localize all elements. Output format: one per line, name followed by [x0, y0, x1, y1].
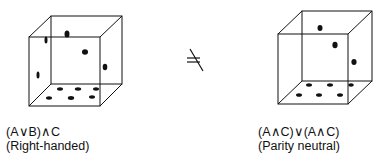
left-cube [29, 16, 122, 106]
left-formula: (A∨B)∧C [6, 125, 89, 139]
not-equal-icon [187, 49, 203, 71]
right-formula: (A∧C)∨(A∧C) [258, 125, 340, 139]
left-cube-dots [37, 31, 108, 100]
right-caption: (A∧C)∨(A∧C) (Parity neutral) [258, 125, 340, 153]
right-label: (Parity neutral) [258, 139, 340, 153]
left-label: (Right-handed) [6, 139, 89, 153]
left-caption: (A∨B)∧C (Right-handed) [6, 125, 89, 153]
right-cube [278, 11, 372, 104]
